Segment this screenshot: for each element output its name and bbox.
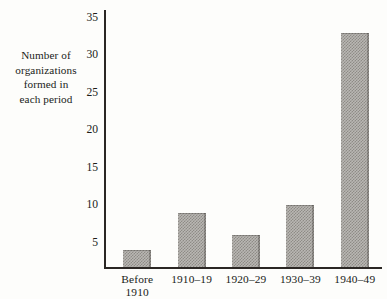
bar-chart-figure: Number of organizations formed in each p… — [0, 0, 387, 299]
x-tick-label-line-1: 1940–49 — [334, 273, 375, 285]
x-tick-label: Before 1910 — [121, 273, 153, 299]
x-tick-label-line-1: 1930–39 — [280, 273, 321, 285]
x-tick-label-line-1: Before — [121, 273, 153, 285]
y-tick-label: 15 — [86, 162, 98, 174]
plot-area: 5 10 15 20 25 30 35 Before 1910 1910–19 … — [104, 10, 382, 268]
x-tick-label: 1940–49 — [334, 273, 375, 286]
x-tick-label-line-1: 1910–19 — [171, 273, 212, 285]
x-axis-line — [104, 267, 382, 269]
y-axis-title-line-1: Number of — [2, 48, 90, 63]
y-tick-label: 10 — [86, 200, 98, 212]
x-tick-label: 1920–29 — [226, 273, 267, 286]
y-tick-label: 5 — [92, 237, 98, 249]
y-axis-title: Number of organizations formed in each p… — [2, 48, 90, 106]
y-axis-title-line-2: organizations — [2, 63, 90, 78]
x-tick-label: 1930–39 — [280, 273, 321, 286]
y-axis-title-line-4: each period — [2, 92, 90, 107]
bar — [178, 213, 206, 267]
y-axis-title-line-3: formed in — [2, 77, 90, 92]
x-tick-label: 1910–19 — [171, 273, 212, 286]
y-tick-label: 20 — [86, 124, 98, 136]
bar — [286, 205, 314, 267]
y-axis-line — [104, 10, 106, 268]
x-tick-label-line-1: 1920–29 — [226, 273, 267, 285]
bar — [341, 33, 369, 267]
y-tick-label: 35 — [86, 12, 98, 24]
x-tick-label-line-2: 1910 — [121, 286, 153, 299]
y-tick-label: 25 — [86, 87, 98, 99]
bar — [232, 235, 260, 267]
y-tick-label: 30 — [86, 49, 98, 61]
bar — [123, 250, 151, 267]
